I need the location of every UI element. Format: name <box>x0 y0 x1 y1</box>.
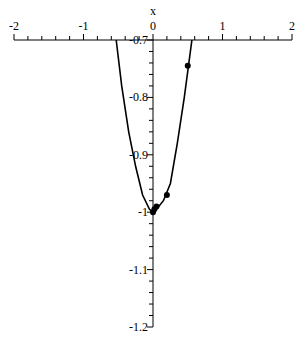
x-tick-label: 2 <box>289 19 295 33</box>
data-point <box>185 63 191 69</box>
axes: -2-1012x-0.7-0.8-0.9-1-1.1-1.2 <box>9 4 295 334</box>
x-tick-label: -2 <box>9 19 19 33</box>
y-tick-label: -0.7 <box>129 33 148 47</box>
curve-line <box>116 40 192 212</box>
x-tick-label: 1 <box>220 19 226 33</box>
y-tick-label: -0.8 <box>129 90 148 104</box>
y-tick-label: -1 <box>138 205 148 219</box>
data-point <box>164 192 170 198</box>
y-tick-label: -1.1 <box>129 263 148 277</box>
x-axis-label: x <box>150 4 156 18</box>
data-points <box>150 63 191 215</box>
y-tick-label: -1.2 <box>129 320 148 334</box>
x-tick-label: 0 <box>150 19 156 33</box>
x-tick-label: -1 <box>79 19 89 33</box>
chart: -2-1012x-0.7-0.8-0.9-1-1.1-1.2 <box>0 0 297 341</box>
data-point <box>150 209 156 215</box>
